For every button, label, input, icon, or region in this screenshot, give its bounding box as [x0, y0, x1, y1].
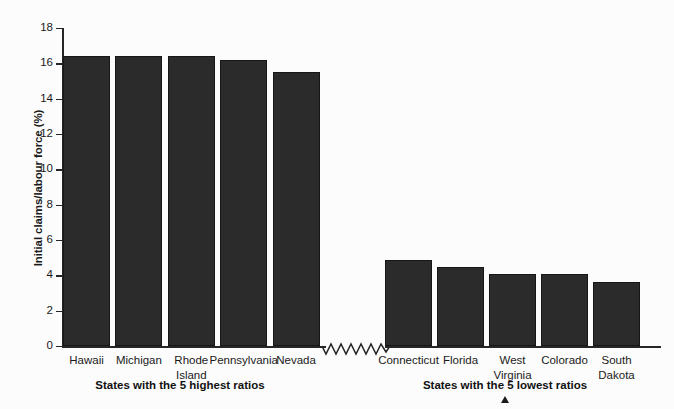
bar [63, 56, 110, 346]
caret-marker-icon [501, 396, 509, 403]
x-category-label: Nevada [256, 353, 336, 368]
bar [489, 274, 536, 346]
y-tick-mark [56, 275, 62, 276]
group-caption-highest: States with the 5 highest ratios [30, 379, 330, 391]
y-tick-mark [56, 205, 62, 206]
y-tick-label: 12 [40, 125, 53, 142]
y-axis-title: Initial claims/labour force (%) [32, 38, 44, 338]
y-tick-mark [56, 28, 62, 29]
bar [437, 267, 484, 347]
bar [220, 60, 267, 346]
bar [541, 274, 588, 346]
y-tick-mark [56, 169, 62, 170]
y-tick-label: 18 [40, 19, 53, 36]
y-tick-label: 6 [47, 231, 53, 248]
y-tick-label: 14 [40, 90, 53, 107]
y-tick-mark [56, 240, 62, 241]
chart-figure: Initial claims/labour force (%) 02468101… [0, 0, 674, 409]
y-tick-mark [56, 134, 62, 135]
bar [385, 260, 432, 346]
y-tick-label: 8 [47, 196, 53, 213]
y-tick-mark [56, 311, 62, 312]
y-tick-mark [56, 63, 62, 64]
x-axis-line-right [385, 346, 661, 348]
y-tick-mark [56, 346, 62, 347]
bar [273, 72, 320, 346]
y-tick-label: 4 [47, 266, 53, 283]
y-tick-label: 10 [40, 160, 53, 177]
y-tick-label: 0 [47, 337, 53, 354]
group-caption-lowest: States with the 5 lowest ratios [355, 379, 655, 391]
bar [168, 56, 215, 346]
y-tick-mark [56, 99, 62, 100]
bar [115, 56, 162, 346]
plot-area: 024681012141618 HawaiiMichiganRhode Isla… [63, 28, 660, 346]
x-axis-line-left [62, 346, 326, 348]
bar [593, 282, 640, 346]
y-tick-label: 16 [40, 54, 53, 71]
y-tick-label: 2 [47, 302, 53, 319]
